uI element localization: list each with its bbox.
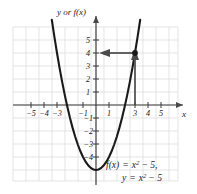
y-tick-label: 5 <box>86 36 90 45</box>
y-tick-label: −3 <box>83 140 93 149</box>
y-tick-label: 4 <box>86 49 90 58</box>
y-tick-label: 2 <box>86 75 90 84</box>
x-tick-label: 1 <box>107 109 111 118</box>
x-tick-labels: −5 −4 −3 −1 1 3 4 5 <box>26 109 163 118</box>
y-tick-label: −2 <box>83 127 93 136</box>
horizontal-arrow-head <box>99 49 110 57</box>
equation-block: f(x)=x2− 5, y=x2− 5 <box>106 159 162 183</box>
graph-figure: −5 −4 −3 −1 1 3 4 5 5 4 3 2 1 −1 −2 −3 −… <box>0 0 197 194</box>
x-tick-label: 4 <box>146 109 150 118</box>
x-axis-arrowhead <box>176 102 183 108</box>
y-axis-label: y or f(x) <box>56 7 86 17</box>
y-tick-label: −1 <box>83 114 93 123</box>
x-tick-label: 5 <box>159 109 163 118</box>
y-tick-label: 3 <box>85 62 90 71</box>
x-axis-label: x <box>181 109 186 119</box>
y-tick-label: 1 <box>86 88 90 97</box>
y-axis-arrowhead <box>93 16 99 23</box>
x-tick-label: −5 <box>26 109 36 118</box>
y-tick-labels: 5 4 3 2 1 −1 −2 −3 −4 <box>83 36 93 162</box>
x-tick-label: −3 <box>52 109 62 118</box>
equation-line-1: f(x)=x2− 5, <box>106 159 157 171</box>
annotations <box>99 49 139 105</box>
x-tick-label: 3 <box>132 109 137 118</box>
point-marker <box>132 50 138 56</box>
x-tick-label: −4 <box>39 109 49 118</box>
axes <box>13 16 183 185</box>
